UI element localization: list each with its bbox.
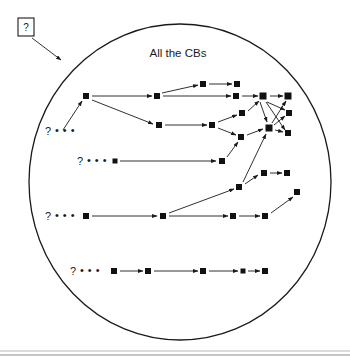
graph-node[interactable] [236,184,242,190]
edge-arrow [227,142,238,157]
edge-arrow [92,100,153,124]
graph-node[interactable] [154,93,160,99]
graph-node[interactable] [111,268,117,274]
graph-node[interactable] [234,81,240,87]
graph-node[interactable] [200,81,206,87]
graph-node[interactable] [160,213,166,219]
nodes-group [83,81,300,274]
graph-node[interactable] [209,122,215,128]
row-markers-group: ?• • •?• • •?• • •?• • • [45,124,107,277]
graph-node[interactable] [200,268,206,274]
graph-node[interactable] [294,189,300,195]
row-question-mark: ? [77,155,83,167]
diagram-canvas: All the CBs ? ?• • •?• • •?• • •?• • • [0,0,350,362]
edge-arrow [245,175,258,184]
edge-arrow [275,130,283,132]
row-question-mark: ? [70,265,76,277]
graph-node[interactable] [285,93,292,100]
graph-node[interactable] [266,125,273,132]
callout-arrow [32,38,61,60]
row-question-mark: ? [45,125,51,137]
figure-container: All the CBs ? ?• • •?• • •?• • •?• • • [0,0,350,362]
edges-group [63,84,293,271]
graph-node[interactable] [286,110,292,116]
graph-node[interactable] [262,268,268,274]
graph-node[interactable] [241,269,246,274]
graph-node[interactable] [145,268,151,274]
graph-node[interactable] [261,170,267,176]
row-question-mark: ? [45,210,51,222]
graph-node[interactable] [285,130,291,136]
edge-arrow [260,102,267,122]
graph-node[interactable] [83,213,89,219]
graph-node[interactable] [230,213,236,219]
edge-arrow [218,128,236,135]
row-ellipsis-dots: • • • [80,264,100,276]
diagram-title: All the CBs [150,47,207,59]
edge-arrow [248,101,259,111]
edge-arrow [218,115,237,122]
edge-arrow [169,189,234,213]
graph-node[interactable] [83,93,89,99]
graph-node[interactable] [113,159,118,164]
row-ellipsis-dots: • • • [87,154,107,166]
row-ellipsis-dots: • • • [55,124,75,136]
graph-node[interactable] [233,93,239,99]
graph-node[interactable] [219,158,225,164]
graph-node[interactable] [238,134,244,140]
callout-question-label: ? [23,22,29,33]
edge-arrow [272,101,286,123]
edge-arrow [247,129,263,135]
graph-node[interactable] [284,170,290,176]
graph-node[interactable] [262,213,268,219]
row-ellipsis-dots: • • • [55,209,75,221]
graph-node[interactable] [239,110,245,116]
graph-node[interactable] [260,93,267,100]
boundary-circle [29,24,331,340]
edge-arrow [271,197,293,213]
graph-node[interactable] [156,122,162,128]
edge-arrow [162,85,198,93]
